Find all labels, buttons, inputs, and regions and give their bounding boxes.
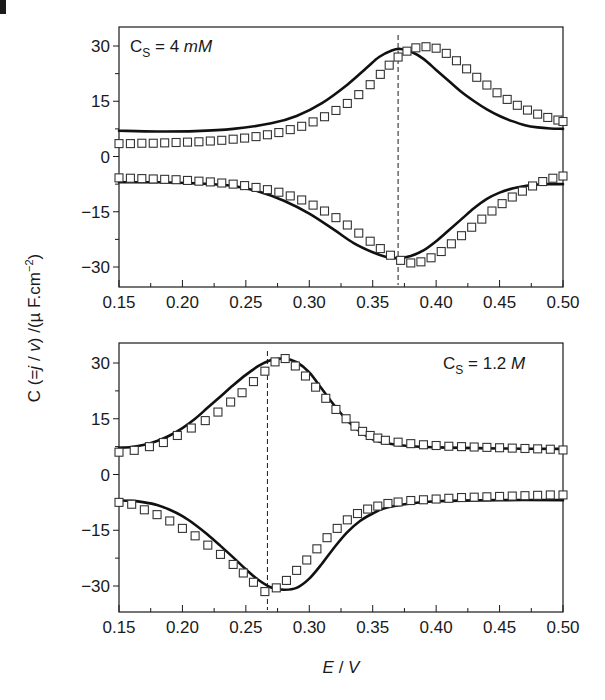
- experiment-cathodic-marker: [376, 245, 384, 253]
- experiment-cathodic-marker: [498, 200, 506, 208]
- experiment-cathodic-marker: [374, 502, 382, 510]
- experiment-cathodic-marker: [191, 532, 199, 540]
- experiment-cathodic-marker: [275, 188, 283, 196]
- experiment-cathodic-marker: [239, 569, 247, 577]
- experiment-cathodic-marker: [518, 187, 526, 195]
- experiment-anodic-marker: [503, 95, 511, 103]
- experiment-cathodic-marker: [286, 192, 294, 200]
- experiment-anodic-marker: [407, 440, 415, 448]
- experiment-anodic-marker: [227, 398, 235, 406]
- experiment-anodic-marker: [332, 106, 340, 114]
- bottom-plot-frame: [119, 343, 563, 612]
- experiment-cathodic-marker: [483, 493, 491, 501]
- x-tick-label: 0.25: [229, 618, 262, 637]
- experiment-cathodic-marker: [161, 175, 169, 183]
- experiment-cathodic-marker: [419, 496, 427, 504]
- experiment-cathodic-marker: [407, 259, 415, 267]
- y-tick-label: −30: [81, 577, 110, 596]
- experiment-cathodic-marker: [323, 534, 331, 542]
- x-tick-label: 0.40: [420, 618, 453, 637]
- experiment-cathodic-marker: [229, 560, 237, 568]
- experiment-anodic-marker: [432, 442, 440, 450]
- experiment-anodic-marker: [249, 378, 257, 386]
- y-tick-label: −15: [81, 521, 110, 540]
- experiment-anodic-marker: [172, 139, 180, 147]
- experiment-anodic-marker: [458, 443, 466, 451]
- experiment-anodic-marker: [403, 47, 411, 55]
- figure: 30150−15−30 0.150.200.250.300.350.400.45…: [0, 0, 605, 700]
- experiment-anodic-marker: [351, 422, 359, 430]
- experiment-anodic-marker: [419, 441, 427, 449]
- experiment-anodic-marker: [534, 110, 542, 118]
- theory-cathodic-curve: [119, 182, 563, 258]
- experiment-anodic-marker: [252, 133, 260, 141]
- experiment-anodic-marker: [291, 362, 299, 370]
- top-x-tick-labels: 0.150.200.250.300.350.400.450.50: [102, 293, 579, 312]
- bottom-x-tick-labels: 0.150.200.250.300.350.400.450.50: [102, 618, 579, 637]
- experiment-cathodic-marker: [293, 566, 301, 574]
- experiment-anodic-marker: [521, 444, 529, 452]
- experiment-cathodic-marker: [216, 550, 224, 558]
- experiment-cathodic-marker: [303, 556, 311, 564]
- experiment-cathodic-marker: [184, 176, 192, 184]
- y-tick-label: 30: [91, 354, 110, 373]
- experiment-anodic-marker: [366, 431, 374, 439]
- experiment-cathodic-marker: [559, 491, 567, 499]
- experiment-anodic-marker: [214, 408, 222, 416]
- experiment-cathodic-marker: [445, 494, 453, 502]
- experiment-anodic-marker: [161, 139, 169, 147]
- experiment-anodic-marker: [394, 438, 402, 446]
- experiment-cathodic-marker: [468, 223, 476, 231]
- top-y-tick-labels: 30150−15−30: [81, 37, 110, 277]
- y-tick-label: 0: [101, 148, 110, 167]
- experiment-cathodic-marker: [343, 221, 351, 229]
- experiment-cathodic-marker: [272, 584, 280, 592]
- x-tick-label: 0.15: [102, 293, 135, 312]
- experiment-anodic-marker: [381, 436, 389, 444]
- experiment-anodic-marker: [355, 91, 363, 99]
- experiment-anodic-marker: [301, 372, 309, 380]
- experiment-anodic-marker: [534, 445, 542, 453]
- bottom-ticks: [113, 363, 563, 612]
- experiment-cathodic-marker: [153, 511, 161, 519]
- experiment-anodic-marker: [281, 355, 289, 363]
- experiment-anodic-marker: [496, 444, 504, 452]
- experiment-anodic-marker: [271, 358, 279, 366]
- experiment-cathodic-marker: [115, 498, 123, 506]
- experiment-cathodic-marker: [417, 258, 425, 266]
- bottom-concentration-label: CS = 1.2 M: [443, 354, 526, 377]
- experiment-anodic-marker: [342, 415, 350, 423]
- experiment-anodic-marker: [206, 137, 214, 145]
- experiment-anodic-marker: [286, 126, 294, 134]
- experiment-cathodic-marker: [343, 516, 351, 524]
- y-tick-label: 15: [91, 410, 110, 429]
- y-tick-label: 0: [101, 466, 110, 485]
- experiment-anodic-marker: [241, 134, 249, 142]
- experiment-anodic-marker: [473, 73, 481, 81]
- experiment-anodic-marker: [173, 431, 181, 439]
- y-tick-label: 30: [91, 37, 110, 56]
- experiment-cathodic-marker: [126, 174, 134, 182]
- top-plot-frame: [119, 27, 563, 287]
- experiment-anodic-marker: [332, 405, 340, 413]
- top-panel: 30150−15−30 0.150.200.250.300.350.400.45…: [81, 27, 579, 312]
- experiment-cathodic-marker: [309, 201, 317, 209]
- experiment-cathodic-marker: [353, 510, 361, 518]
- experiment-cathodic-marker: [195, 177, 203, 185]
- experiment-anodic-marker: [483, 81, 491, 89]
- experiment-cathodic-marker: [488, 207, 496, 215]
- experiment-cathodic-marker: [229, 180, 237, 188]
- bottom-y-tick-labels: 30150−15−30: [81, 354, 110, 596]
- experiment-cathodic-marker: [218, 179, 226, 187]
- x-tick-label: 0.50: [546, 618, 579, 637]
- bottom-panel: 30150−15−30 0.150.200.250.300.350.400.45…: [81, 343, 579, 637]
- x-axis-title: E / V: [323, 658, 362, 677]
- experiment-anodic-marker: [442, 49, 450, 57]
- x-tick-label: 0.50: [546, 293, 579, 312]
- experiment-anodic-marker: [229, 135, 237, 143]
- experiment-cathodic-marker: [241, 182, 249, 190]
- experiment-anodic-marker: [359, 427, 367, 435]
- experiment-anodic-marker: [374, 434, 382, 442]
- experiment-anodic-marker: [366, 81, 374, 89]
- experiment-cathodic-marker: [534, 491, 542, 499]
